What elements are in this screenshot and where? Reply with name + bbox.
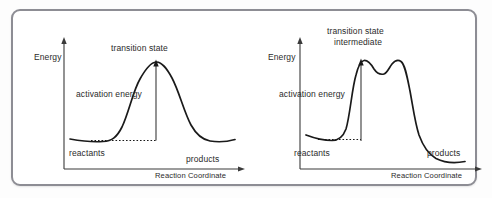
- y-axis-label: Energy: [34, 52, 62, 62]
- panel-single-step-diagram: Energy transition state activation energ…: [19, 11, 255, 184]
- x-axis-label: Reaction Coordinate: [155, 171, 226, 180]
- reactants-label: reactants: [69, 148, 105, 158]
- figure-root: Energy transition state activation energ…: [0, 0, 492, 198]
- transition-state-label: transition state: [327, 26, 384, 36]
- activation-energy-label: activation energy: [279, 89, 345, 99]
- reactants-label: reactants: [294, 148, 330, 158]
- transition-state-label: transition state: [111, 43, 168, 53]
- single-step-plot-svg: [19, 11, 255, 188]
- products-label: products: [427, 148, 460, 158]
- activation-energy-arrow: [358, 59, 363, 142]
- activation-energy-label: activation energy: [76, 89, 142, 99]
- x-axis-label: Reaction Coordinate: [391, 171, 462, 180]
- figure-outer-frame: Energy transition state activation energ…: [11, 9, 477, 186]
- y-axis-group: [61, 37, 66, 169]
- reaction-pathway-curve: [70, 62, 235, 142]
- products-label: products: [186, 154, 219, 164]
- intermediate-label: intermediate: [334, 37, 382, 47]
- y-axis-label: Energy: [268, 52, 296, 62]
- activation-energy-arrow: [153, 60, 158, 141]
- panel-two-step-diagram: Energy transition state intermediate act…: [256, 11, 492, 184]
